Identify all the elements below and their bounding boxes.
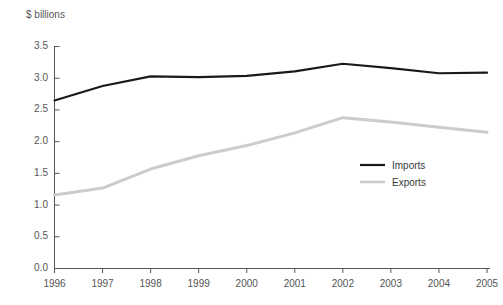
axis-lines bbox=[55, 46, 491, 269]
y-tick-label: 1.0 bbox=[22, 199, 48, 210]
y-tick-label: 3.0 bbox=[22, 72, 48, 83]
series-line-imports bbox=[55, 64, 488, 101]
x-tick-label: 2004 bbox=[416, 278, 462, 289]
y-axis-ticks bbox=[55, 47, 60, 269]
y-tick-label: 1.5 bbox=[22, 167, 48, 178]
x-tick-label: 2003 bbox=[368, 278, 414, 289]
data-series-group bbox=[55, 64, 488, 195]
y-tick-label: 0.0 bbox=[22, 262, 48, 273]
x-tick-label: 1999 bbox=[176, 278, 222, 289]
chart-plot-area bbox=[0, 0, 503, 305]
x-tick-label: 2002 bbox=[320, 278, 366, 289]
y-tick-label: 3.5 bbox=[22, 40, 48, 51]
x-tick-label: 2005 bbox=[464, 278, 503, 289]
y-tick-label: 0.5 bbox=[22, 230, 48, 241]
legend-item-imports: Imports bbox=[392, 160, 425, 171]
x-tick-label: 1997 bbox=[80, 278, 126, 289]
x-tick-label: 2001 bbox=[272, 278, 318, 289]
x-tick-label: 1998 bbox=[128, 278, 174, 289]
legend-item-exports: Exports bbox=[392, 177, 426, 188]
y-tick-label: 2.5 bbox=[22, 103, 48, 114]
y-tick-label: 2.0 bbox=[22, 135, 48, 146]
chart-figure: $ billions 0.00.51.01.52.02.53.03.5 1996… bbox=[0, 0, 503, 305]
x-tick-label: 2000 bbox=[224, 278, 270, 289]
x-tick-label: 1996 bbox=[32, 278, 78, 289]
legend-swatches bbox=[360, 165, 385, 182]
